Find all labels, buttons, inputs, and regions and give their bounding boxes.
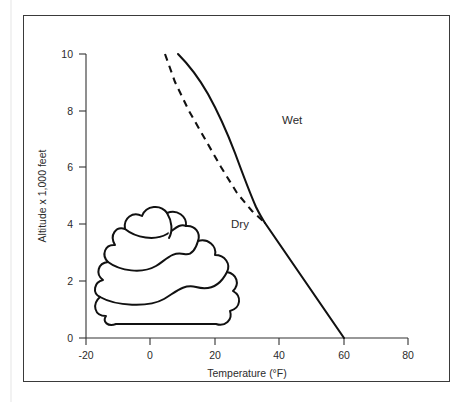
dry-curve-label: Dry xyxy=(231,218,249,230)
thermodynamic-diagram: -20 0 20 40 60 80 0 2 4 6 8 10 xyxy=(24,16,449,381)
x-tick-label: 80 xyxy=(402,349,414,361)
x-axis-title: Temperature (°F) xyxy=(207,367,286,379)
dry-adiabat-curve xyxy=(165,54,264,222)
y-axis-ticks: 0 2 4 6 8 10 xyxy=(61,48,86,344)
y-tick-label: 6 xyxy=(67,161,73,173)
y-tick-label: 2 xyxy=(67,275,73,287)
wet-adiabat-curve xyxy=(178,54,265,223)
page-edge-guide-line xyxy=(10,0,12,402)
wet-curve-label: Wet xyxy=(282,114,303,126)
figure-frame: -20 0 20 40 60 80 0 2 4 6 8 10 xyxy=(23,15,450,382)
dry-adiabat-lower-segment xyxy=(265,223,344,338)
x-axis-ticks: -20 0 20 40 60 80 xyxy=(78,338,414,361)
x-tick-label: 0 xyxy=(147,349,153,361)
y-axis-title: Altitude x 1,000 feet xyxy=(36,150,48,243)
y-tick-label: 0 xyxy=(67,332,73,344)
x-tick-label: 20 xyxy=(209,349,221,361)
y-tick-label: 4 xyxy=(67,218,73,230)
x-tick-label: 60 xyxy=(338,349,350,361)
y-tick-label: 10 xyxy=(61,48,73,60)
x-tick-label: 40 xyxy=(273,349,285,361)
x-tick-label: -20 xyxy=(78,349,93,361)
y-tick-label: 8 xyxy=(67,105,73,117)
figure-page: -20 0 20 40 60 80 0 2 4 6 8 10 xyxy=(0,0,471,402)
